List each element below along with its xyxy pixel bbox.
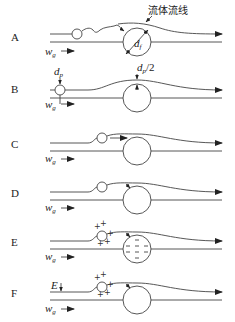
gas-velocity-label: wg — [45, 152, 56, 166]
particle — [97, 182, 107, 192]
gas-velocity-label: wg — [45, 250, 56, 264]
streamline-callout: 流体流线 — [148, 4, 188, 16]
streamline — [107, 283, 222, 292]
particle-trajectory — [126, 284, 130, 288]
streamline — [50, 236, 97, 241]
callout-leader — [146, 16, 152, 22]
collector — [123, 286, 151, 314]
panel-b: B dp dp/2 wg — [11, 61, 222, 112]
particle-trajectory — [126, 184, 130, 188]
collector — [123, 235, 151, 263]
svg-text:+: + — [104, 237, 111, 246]
panel-a: A df 流体流线 wg — [11, 4, 222, 59]
particle-diameter-label: dp — [54, 65, 64, 79]
panel-label-f: F — [11, 287, 17, 299]
panel-f: F E + + + + + wg — [11, 270, 222, 316]
gas-velocity-label: wg — [45, 201, 56, 215]
svg-text:+: + — [100, 219, 107, 228]
panel-label-a: A — [11, 31, 19, 43]
particle-trajectory — [126, 233, 130, 237]
streamline — [107, 183, 222, 192]
streamline — [50, 138, 97, 143]
gas-velocity-label: wg — [45, 302, 56, 316]
collector — [123, 137, 151, 165]
particle-trajectory — [82, 25, 124, 32]
offset-label: dp/2 — [137, 61, 155, 75]
gas-velocity-label: wg — [45, 45, 56, 59]
collector — [123, 186, 151, 214]
panel-label-e: E — [11, 236, 18, 248]
electric-field-label: E — [50, 279, 58, 291]
panel-label-d: D — [11, 187, 19, 199]
gas-velocity-label: wg — [45, 98, 56, 112]
panel-d: D wg — [11, 182, 222, 215]
svg-text:+: + — [104, 288, 111, 297]
svg-text:+: + — [97, 239, 104, 248]
svg-text:+: + — [97, 290, 104, 299]
streamline — [107, 232, 222, 241]
particle — [97, 133, 107, 143]
particle-capture-diagram: A df 流体流线 wg B dp dp/2 wg C — [0, 0, 235, 322]
particle — [72, 29, 82, 39]
panel-c: C wg — [11, 133, 222, 166]
panel-label-c: C — [11, 138, 18, 150]
svg-text:+: + — [100, 270, 107, 279]
streamline — [50, 187, 97, 192]
panel-e: E + + + + + wg — [11, 219, 222, 264]
panel-label-b: B — [11, 83, 18, 95]
particle — [55, 85, 65, 95]
